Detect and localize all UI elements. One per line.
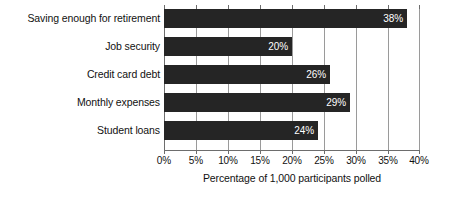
x-axis-tick-labels: 0% 5% 10% 15% 20% 25% 30% 35% 40% [164,154,420,168]
category-label-job-security: Job security [0,40,160,52]
tick-top-40 [419,5,420,9]
gridline-40 [419,9,420,150]
x-tick-label-40: 40% [399,154,439,167]
bar-saving-enough-for-retirement[interactable] [164,9,407,28]
plot-area: 38% 20% 26% 29% 24% [164,9,420,150]
category-label-monthly-expenses: Monthly expenses [0,96,160,108]
bar-value-monthly-expenses: 29% [320,93,346,112]
category-axis-labels: Saving enough for retirement Job securit… [0,9,160,150]
bar-value-credit-card-debt: 26% [300,65,326,84]
gridline-30 [356,9,357,150]
x-axis-title: Percentage of 1,000 participants polled [164,172,420,185]
category-label-credit-card-debt: Credit card debt [0,68,160,80]
category-label-student-loans: Student loans [0,124,160,136]
bar-chart: Saving enough for retirement Job securit… [0,0,452,199]
category-label-saving-enough-for-retirement: Saving enough for retirement [0,12,160,24]
bar-value-job-security: 20% [262,37,288,56]
bar-value-saving-enough-for-retirement: 38% [377,9,403,28]
gridline-35 [388,9,389,150]
bar-value-student-loans: 24% [288,121,314,140]
